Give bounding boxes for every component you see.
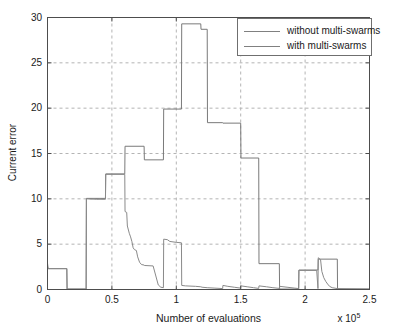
legend-item-label: without multi-swarms [287, 26, 380, 36]
legend-item-label: with multi-swarms [287, 41, 366, 51]
x-axis-multiplier: x 105 [338, 312, 361, 324]
y-tick-label: 5 [20, 238, 42, 249]
x-axis-multiplier-base: x 10 [338, 313, 357, 324]
x-tick-label: 0 [33, 294, 63, 305]
y-tick-label: 20 [20, 102, 42, 113]
x-tick-label: 2 [290, 294, 320, 305]
series-line [48, 174, 370, 289]
data-series-group [48, 24, 370, 289]
x-tick-label: 1 [161, 294, 191, 305]
x-tick-label: 1.5 [226, 294, 256, 305]
x-tick-label: 2.5 [355, 294, 385, 305]
x-tick-label: 0.5 [97, 294, 127, 305]
y-axis-label: Current error [7, 117, 18, 187]
y-tick-label: 30 [20, 12, 42, 23]
legend-item-without-multi-swarms: without multi-swarms [244, 24, 380, 38]
chart-figure: 051015202530 00.511.522.5 Current error … [0, 0, 402, 332]
legend-line-swatch [244, 31, 280, 32]
y-tick-label: 10 [20, 193, 42, 204]
x-axis-label: Number of evaluations [139, 312, 279, 324]
x-axis-multiplier-exponent: 5 [356, 312, 360, 319]
legend: without multi-swarms with multi-swarms [237, 18, 372, 56]
y-tick-label: 25 [20, 57, 42, 68]
legend-line-swatch [244, 46, 280, 47]
legend-item-with-multi-swarms: with multi-swarms [244, 39, 366, 53]
y-tick-label: 15 [20, 148, 42, 159]
series-line [48, 24, 370, 289]
gridlines [48, 18, 370, 290]
